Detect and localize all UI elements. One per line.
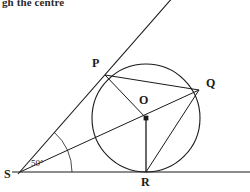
- figure-root: gh the centre P Q O R S 50°: [0, 0, 250, 192]
- centre-point-marker: [144, 116, 149, 121]
- chord-PQ: [105, 75, 199, 90]
- vertex-label-o: O: [139, 94, 148, 106]
- vertex-label-s: S: [4, 168, 11, 180]
- angle-label-50-degrees: 50°: [31, 159, 44, 168]
- vertex-label-p: P: [92, 57, 99, 69]
- vertex-label-q: Q: [206, 77, 215, 89]
- tangent-line-upper: [18, 0, 174, 174]
- vertex-label-r: R: [141, 176, 150, 188]
